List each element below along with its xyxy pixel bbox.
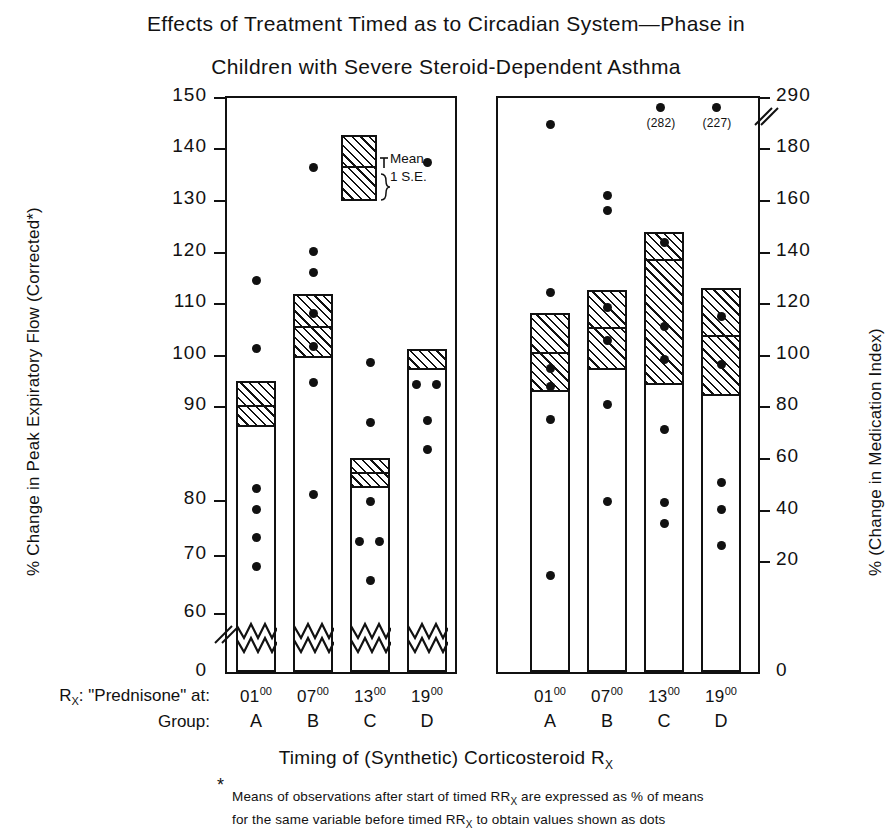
data-dot bbox=[603, 336, 612, 345]
xlabel-left-1900: 1900 bbox=[397, 685, 457, 707]
footnote-line2: for the same variable before timed RRX t… bbox=[232, 812, 666, 830]
right-panel-left-border bbox=[496, 96, 498, 674]
footnote-line1: Means of observations after start of tim… bbox=[232, 789, 704, 807]
data-dot bbox=[717, 505, 726, 514]
group-left-B: B bbox=[283, 711, 343, 732]
right-panel-baseline bbox=[496, 672, 760, 674]
right-xtick bbox=[587, 657, 589, 674]
right-ticklabel-80: 80 bbox=[776, 393, 856, 415]
bar-right-C-mean-line bbox=[644, 259, 684, 261]
x-axis-title-text: Timing of (Synthetic) Corticosteroid R bbox=[279, 747, 605, 768]
group-right-A: A bbox=[520, 711, 580, 732]
data-dot bbox=[546, 571, 555, 580]
xlabel-left-0100: 0100 bbox=[226, 685, 286, 707]
right-ticklabel-180: 180 bbox=[776, 135, 856, 157]
xlabel-sup: 00 bbox=[374, 685, 386, 697]
right-ticklabel-120: 120 bbox=[776, 290, 856, 312]
data-dot bbox=[546, 415, 555, 424]
right-tick-60 bbox=[758, 458, 770, 460]
right-ticklabel-160: 160 bbox=[776, 187, 856, 209]
footnote-rx: R bbox=[500, 789, 510, 804]
footnote-line1-a: Means of observations after start of tim… bbox=[232, 789, 500, 804]
rx-label-subscript: X bbox=[72, 695, 79, 707]
data-dot bbox=[546, 382, 555, 391]
xlabel-sup: 00 bbox=[431, 685, 443, 697]
right-ticklabel-40: 40 bbox=[776, 497, 856, 519]
right-tick-180 bbox=[758, 148, 770, 150]
xlabel-right-0700: 0700 bbox=[577, 685, 637, 707]
right-xtick bbox=[739, 657, 741, 674]
footnote-asterisk: * bbox=[217, 775, 224, 796]
footnote-line1-b: are expressed as % of means bbox=[517, 789, 704, 804]
rx-label-suffix: : "Prednisone" at: bbox=[79, 686, 210, 705]
group-right-D: D bbox=[691, 711, 751, 732]
data-dot bbox=[603, 497, 612, 506]
right-xtick bbox=[530, 657, 532, 674]
data-dot bbox=[712, 103, 721, 112]
footnote-rx: R bbox=[456, 812, 466, 827]
xlabel-sup: 00 bbox=[668, 685, 680, 697]
right-xtick bbox=[625, 657, 627, 674]
xlabel-sup: 00 bbox=[611, 685, 623, 697]
xlabel-right-0100: 0100 bbox=[520, 685, 580, 707]
right-tick-160 bbox=[758, 200, 770, 202]
right-ticklabel-100: 100 bbox=[776, 342, 856, 364]
xlabel-right-1300: 1300 bbox=[634, 685, 694, 707]
xlabel-sup: 00 bbox=[260, 685, 272, 697]
right-tick-120 bbox=[758, 303, 770, 305]
data-dot bbox=[546, 120, 555, 129]
data-dot bbox=[660, 425, 669, 434]
group-right-C: C bbox=[634, 711, 694, 732]
data-dot bbox=[603, 191, 612, 200]
data-dot bbox=[717, 541, 726, 550]
right-xtick bbox=[644, 657, 646, 674]
right-panel: 290 180 160 140 120 100 80 60 40 20 0 bbox=[0, 0, 892, 700]
data-dot bbox=[660, 498, 669, 507]
footnote-rx-subscript: X bbox=[466, 819, 473, 830]
right-tick-290 bbox=[758, 97, 770, 99]
right-axis-break-icon bbox=[752, 104, 780, 130]
right-tick-140 bbox=[758, 252, 770, 254]
right-xtick bbox=[568, 657, 570, 674]
data-dot bbox=[717, 360, 726, 369]
right-tick-20 bbox=[758, 561, 770, 563]
xlabel-sup: 00 bbox=[317, 685, 329, 697]
x-axis-title: Timing of (Synthetic) Corticosteroid RX bbox=[0, 747, 892, 772]
xlabel-left-0700: 0700 bbox=[283, 685, 343, 707]
data-dot bbox=[603, 400, 612, 409]
right-ticklabel-20: 20 bbox=[776, 548, 856, 570]
offscale-label-D: (227) bbox=[687, 116, 747, 130]
right-xtick bbox=[701, 657, 703, 674]
right-axis-line bbox=[758, 96, 760, 674]
data-dot bbox=[717, 312, 726, 321]
right-ticklabel-60: 60 bbox=[776, 445, 856, 467]
data-dot bbox=[660, 238, 669, 247]
right-panel-top-border bbox=[496, 96, 760, 98]
data-dot bbox=[717, 478, 726, 487]
xlabel-sup: 00 bbox=[725, 685, 737, 697]
xlabel-left-1300: 1300 bbox=[340, 685, 400, 707]
group-left-C: C bbox=[340, 711, 400, 732]
right-ticklabel-0: 0 bbox=[776, 659, 856, 681]
data-dot bbox=[660, 355, 669, 364]
right-tick-80 bbox=[758, 406, 770, 408]
data-dot bbox=[660, 322, 669, 331]
data-dot bbox=[660, 519, 669, 528]
bar-right-A-mean-line bbox=[530, 352, 570, 354]
bar-right-D-se-box bbox=[701, 288, 741, 396]
right-ticklabel-290: 290 bbox=[776, 84, 856, 106]
xlabel-sup: 00 bbox=[554, 685, 566, 697]
rx-row-label: RX: "Prednisone" at: bbox=[30, 686, 210, 707]
group-row-label: Group: bbox=[30, 712, 210, 732]
data-dot bbox=[603, 206, 612, 215]
group-left-D: D bbox=[397, 711, 457, 732]
data-dot bbox=[603, 303, 612, 312]
data-dot bbox=[546, 288, 555, 297]
group-left-A: A bbox=[226, 711, 286, 732]
right-xtick bbox=[682, 657, 684, 674]
footnote-line2-b: to obtain values shown as dots bbox=[473, 812, 666, 827]
data-dot bbox=[546, 364, 555, 373]
group-right-B: B bbox=[577, 711, 637, 732]
right-tick-100 bbox=[758, 355, 770, 357]
rx-label-prefix: R bbox=[59, 686, 71, 705]
